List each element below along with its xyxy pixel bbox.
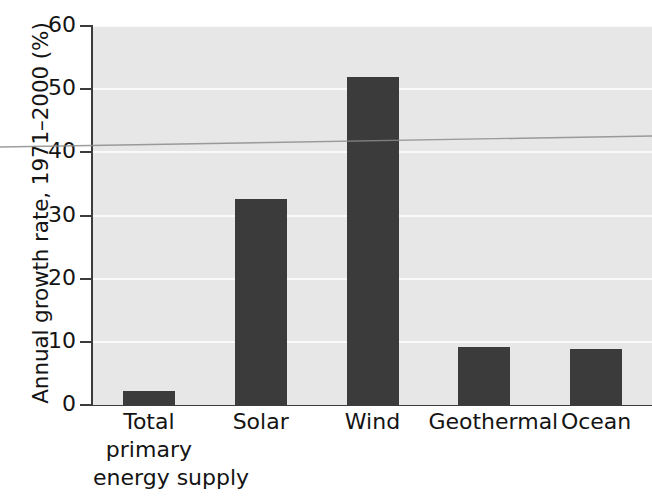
y-axis-tick-label: 20 [30,267,76,289]
x-axis-tick-label: Totalprimaryenergy supply [93,408,205,492]
bar [458,347,510,405]
x-axis-tick-label: Solar [205,408,317,436]
x-axis-tick-label-line: Solar [205,408,317,436]
bar [347,77,399,405]
y-axis-tick-mark [80,215,91,217]
x-axis-tick-label-line: energy supply [93,464,205,492]
bar [235,199,287,405]
y-axis-tick-mark [80,25,91,27]
y-axis-tick-label: 10 [30,330,76,352]
gridline [93,26,652,27]
y-axis-tick-labels: 0102030405060 [30,0,76,497]
y-axis-tick-mark [80,404,91,406]
plot-area [93,26,652,405]
x-axis-tick-label-line: Ocean [540,408,652,436]
bar-chart-figure: Annual growth rate, 1971–2000 (%) 010203… [0,0,652,497]
y-axis-tick-mark [80,88,91,90]
x-axis-tick-label: Geothermal [428,408,540,436]
y-axis-tick-mark [80,278,91,280]
x-axis-tick-label: Ocean [540,408,652,436]
bar [570,349,622,405]
y-axis-tick-label: 0 [30,393,76,415]
x-axis-tick-label-line: primary [93,436,205,464]
bar [123,391,175,405]
x-axis-tick-label: Wind [317,408,429,436]
y-axis-tick-mark [80,341,91,343]
x-axis-tick-label-line: Total [93,408,205,436]
x-axis-tick-label-line: Wind [317,408,429,436]
y-axis-tick-label: 60 [30,14,76,36]
y-axis-tick-mark [80,151,91,153]
y-axis-tick-label: 50 [30,77,76,99]
x-axis-tick-labels: Totalprimaryenergy supplySolarWindGeothe… [93,408,652,497]
y-axis-tick-label: 30 [30,204,76,226]
y-axis-tick-label: 40 [30,140,76,162]
x-axis-tick-label-line: Geothermal [428,408,540,436]
